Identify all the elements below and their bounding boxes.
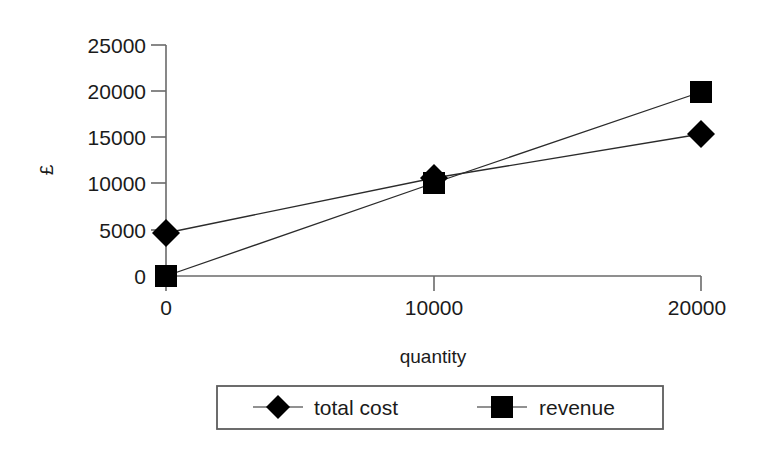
chart-legend: total cost revenue [217, 386, 663, 429]
series-revenue-marker-2 [690, 81, 712, 103]
break-even-chart: 25000 20000 15000 10000 5000 0 £ 0 10000… [0, 0, 760, 464]
y-tick-label-20000: 20000 [88, 80, 146, 103]
legend-entry-revenue[interactable]: revenue [477, 396, 615, 419]
y-axis-title: £ [36, 164, 57, 175]
series-total-cost-marker-0 [152, 219, 180, 247]
x-tick-marks [166, 276, 701, 291]
legend-label-revenue: revenue [539, 396, 615, 419]
y-tick-label-15000: 15000 [88, 126, 146, 149]
legend-entry-total-cost[interactable]: total cost [253, 395, 398, 419]
series-total-cost-marker-2 [687, 120, 715, 148]
chart-canvas: 25000 20000 15000 10000 5000 0 £ 0 10000… [0, 0, 760, 464]
legend-label-total-cost: total cost [314, 396, 398, 419]
x-tick-label-0: 0 [160, 296, 172, 319]
y-tick-label-25000: 25000 [88, 34, 146, 57]
y-tick-label-10000: 10000 [88, 172, 146, 195]
x-tick-labels: 0 10000 20000 [160, 296, 726, 319]
x-tick-label-20000: 20000 [668, 296, 726, 319]
square-marker-icon [491, 396, 513, 418]
y-tick-marks [151, 45, 166, 230]
y-tick-label-0: 0 [134, 265, 146, 288]
x-axis-title: quantity [400, 346, 467, 367]
series-total-cost [152, 120, 715, 247]
x-tick-label-10000: 10000 [405, 296, 463, 319]
series-revenue-marker-0 [155, 265, 177, 287]
axis-group [166, 45, 701, 276]
y-tick-label-5000: 5000 [99, 219, 146, 242]
y-tick-labels: 25000 20000 15000 10000 5000 0 [88, 34, 146, 288]
